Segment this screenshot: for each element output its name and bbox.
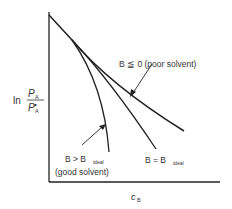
curve-poor-solvent — [49, 15, 184, 131]
y-axis-label: ln P A P A • — [13, 88, 44, 114]
label-ideal-sub: ideal — [173, 160, 184, 166]
y-label-numerator: P — [28, 88, 35, 99]
label-good-solvent: B > B ideal (good solvent) — [55, 154, 109, 177]
label-good-main: B > B — [65, 154, 86, 164]
diagram-canvas: ln P A P A • c B B ≦ 0 (poor solvent) B … — [0, 0, 232, 209]
label-ideal: B = B ideal — [145, 155, 184, 166]
x-axis-label: c B — [131, 192, 141, 203]
x-label-sub: B — [137, 197, 141, 203]
y-label-prefix: ln — [13, 95, 21, 106]
curve-good-solvent — [72, 40, 109, 152]
label-good-sub: ideal — [93, 159, 104, 165]
y-label-denominator-sup: • — [34, 100, 37, 109]
label-ideal-main: B = B — [145, 155, 166, 165]
label-good-line2: (good solvent) — [55, 167, 109, 177]
arrow-good-solvent-line — [82, 127, 102, 145]
label-poor-solvent: B ≦ 0 (poor solvent) — [119, 59, 197, 69]
curve-ideal — [72, 40, 156, 149]
x-label-main: c — [131, 192, 136, 202]
